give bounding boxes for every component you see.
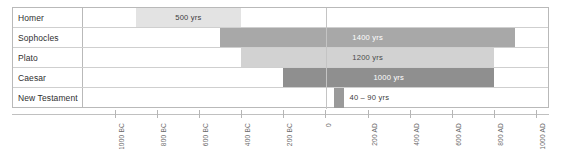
x-axis-tick-label: 0 (325, 123, 332, 127)
bar-value-label: 1400 yrs (352, 34, 383, 42)
x-axis-tick (199, 110, 200, 118)
x-axis-tick (368, 110, 369, 118)
bar-homer: 500 yrs (136, 8, 241, 27)
x-axis-tick (410, 110, 411, 118)
bar-value-label: 1200 yrs (352, 54, 383, 62)
chart-row-homer: Homer500 yrs (13, 8, 548, 28)
row-label-sophocles: Sophocles (13, 28, 83, 47)
x-axis-tick (536, 110, 537, 118)
row-plot-area: 500 yrs (83, 8, 548, 27)
x-axis-tick (157, 110, 158, 118)
bar-plato: 1200 yrs (241, 48, 494, 67)
row-plot-area: 1400 yrs (83, 28, 548, 47)
x-axis-tick (494, 110, 495, 118)
x-axis-tick-label: 200 AD (371, 123, 378, 146)
x-axis-tick (241, 110, 242, 118)
bar-value-label: 40 – 90 yrs (349, 94, 389, 102)
chart-plot-frame: Homer500 yrsSophocles1400 yrsPlato1200 y… (12, 7, 549, 108)
row-plot-area: 1200 yrs (83, 48, 548, 67)
x-axis-tick-label: 800 BC (160, 123, 167, 146)
bar-caesar: 1000 yrs (283, 68, 494, 87)
x-axis-tick-label: 400 BC (244, 123, 251, 146)
chart-row-plato: Plato1200 yrs (13, 48, 548, 68)
zero-year-gridline (326, 8, 327, 109)
row-plot-area: 40 – 90 yrs (83, 88, 548, 108)
x-axis-tick (115, 110, 116, 118)
x-axis-tick-label: 1000 BC (118, 123, 125, 149)
row-label-new-testament: New Testament (13, 88, 83, 108)
chart-row-caesar: Caesar1000 yrs (13, 68, 548, 88)
x-axis-tick-label: 1000 AD (539, 123, 546, 149)
x-axis-tick-label: 600 BC (202, 123, 209, 146)
chart-row-new-testament: New Testament40 – 90 yrs (13, 88, 548, 108)
bar-new-testament: 40 – 90 yrs (334, 88, 345, 108)
bar-sophocles: 1400 yrs (220, 28, 515, 47)
manuscript-gap-chart: Homer500 yrsSophocles1400 yrsPlato1200 y… (0, 0, 562, 149)
x-axis-tick-label: 800 AD (497, 123, 504, 146)
chart-row-sophocles: Sophocles1400 yrs (13, 28, 548, 48)
x-axis-tick-label: 600 AD (455, 123, 462, 146)
x-axis-line: 1000 BC800 BC600 BC400 BC200 BC0200 AD40… (12, 114, 549, 115)
bar-value-label: 1000 yrs (373, 74, 404, 82)
bar-value-label: 500 yrs (175, 14, 201, 22)
x-axis-tick-label: 400 AD (413, 123, 420, 146)
x-axis-tick (452, 110, 453, 118)
row-plot-area: 1000 yrs (83, 68, 548, 87)
x-axis-tick (283, 110, 284, 118)
x-axis-tick-label: 200 BC (286, 123, 293, 146)
row-label-plato: Plato (13, 48, 83, 67)
row-label-homer: Homer (13, 8, 83, 27)
x-axis-tick (325, 110, 326, 118)
row-label-caesar: Caesar (13, 68, 83, 87)
